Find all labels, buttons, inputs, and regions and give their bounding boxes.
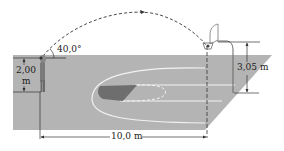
launch-angle-label: 40,0° [57,45,82,54]
arrowhead-down-icon [246,89,249,93]
trajectory-arrow [140,10,145,14]
projectile-diagram [0,0,284,151]
arrowhead-left-icon [41,136,45,139]
hoop-height-label: 3,05 m [237,63,268,72]
arrowhead-right-icon [203,136,207,139]
basketball [206,44,209,47]
backboard [210,24,218,44]
release-height-unit-label: m [21,77,32,86]
arrowhead-up-icon [246,43,249,47]
horizontal-distance-label: 10,0 m [111,132,142,141]
release-height-value-label: 2,00 [15,66,37,75]
